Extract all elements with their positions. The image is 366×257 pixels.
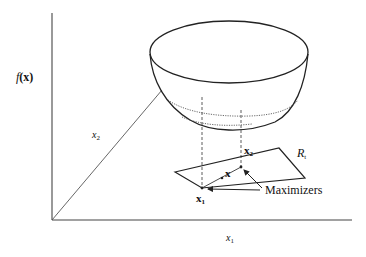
point-x1-sub: 1 <box>202 198 206 206</box>
maximizer-arrow-x1 <box>208 189 260 190</box>
point-x2 <box>240 166 243 169</box>
point-x-symbol: x <box>225 167 231 179</box>
point-x1-label: x1 <box>196 193 205 206</box>
fx-axis-label: f(x) <box>16 71 33 83</box>
point-x1 <box>201 187 204 190</box>
x1-axis-label: x1 <box>226 233 234 245</box>
maximizer-arrow-x2 <box>244 170 262 188</box>
point-x2-sub: 2 <box>250 150 254 158</box>
x1-axis-sub: 1 <box>230 237 234 245</box>
bowl-body <box>150 54 308 130</box>
depth-axis <box>52 90 162 220</box>
bowl-dotted-level <box>168 100 298 116</box>
x2-axis-label: x2 <box>92 130 100 142</box>
region-label: Rt <box>297 147 306 161</box>
maximizers-label: Maximizers <box>265 184 322 196</box>
region-sub: t <box>304 153 306 161</box>
point-x2-label: x2 <box>244 145 253 158</box>
fx-arg: (x) <box>19 70 33 84</box>
point-x-label: x <box>225 168 231 179</box>
point-x <box>221 177 224 180</box>
diagram-canvas <box>0 0 366 257</box>
x2-axis-sub: 2 <box>96 134 100 142</box>
bowl-rim <box>150 21 308 83</box>
